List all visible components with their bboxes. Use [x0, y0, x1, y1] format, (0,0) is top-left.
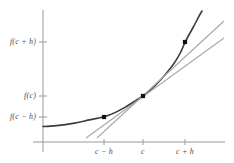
point-c-minus-h — [102, 115, 106, 119]
series-tangent-line — [97, 21, 224, 138]
x-axis-label-2: c + h — [176, 148, 194, 156]
series-secant-line — [86, 38, 224, 138]
x-axis-label-1: c — [141, 148, 145, 156]
point-c-plus-h — [183, 40, 187, 44]
x-axis-label-0: c − h — [95, 148, 113, 156]
axes — [33, 10, 225, 152]
point-c — [141, 94, 145, 98]
axis-ticks — [39, 42, 185, 145]
series-curve — [43, 11, 202, 127]
plot-area — [0, 0, 234, 163]
plot-series — [43, 11, 224, 138]
derivative-figure: f(c + h)f(c)f(c − h) c − hcc + h — [0, 0, 234, 163]
y-axis-label-2: f(c − h) — [0, 113, 36, 121]
y-axis-label-0: f(c + h) — [0, 38, 36, 46]
data-point-markers — [102, 40, 187, 119]
y-axis-label-1: f(c) — [0, 92, 36, 100]
